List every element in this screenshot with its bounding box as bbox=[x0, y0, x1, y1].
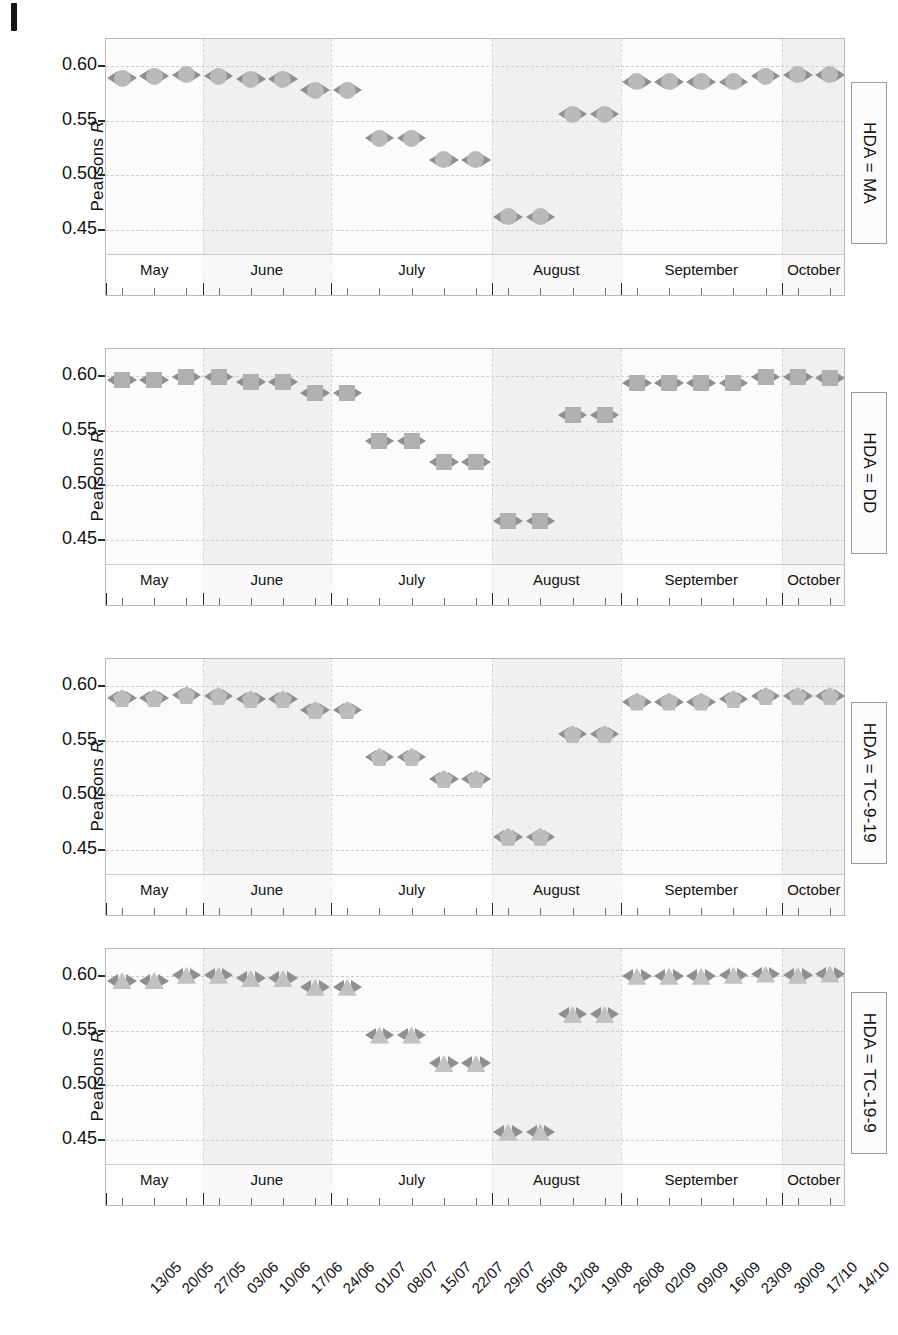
y-axis-tick-label: 0.55 bbox=[45, 1019, 97, 1040]
marker-square bbox=[178, 369, 194, 385]
data-point bbox=[107, 370, 137, 390]
marker-square bbox=[307, 385, 323, 401]
date-tick bbox=[701, 908, 702, 915]
date-tick bbox=[186, 288, 187, 295]
data-point bbox=[461, 452, 491, 472]
marker-square bbox=[275, 374, 291, 390]
date-tick bbox=[733, 598, 734, 605]
date-tick bbox=[219, 908, 220, 915]
date-tick bbox=[444, 1198, 445, 1205]
month-label: July bbox=[331, 261, 492, 278]
marker-circle bbox=[210, 68, 227, 85]
date-tick bbox=[379, 598, 380, 605]
y-axis-tick-mark bbox=[98, 740, 105, 742]
x-axis-date-label: 01/07 bbox=[371, 1258, 410, 1297]
date-tick bbox=[766, 908, 767, 915]
facet-panel-2: Pearsons R0.450.500.550.60MayJuneJulyAug… bbox=[105, 348, 845, 606]
y-axis-tick-mark bbox=[98, 229, 105, 231]
horizontal-gridline bbox=[106, 1031, 844, 1032]
month-label: May bbox=[106, 881, 203, 898]
month-major-tick bbox=[621, 593, 622, 605]
marker-circle bbox=[339, 82, 356, 99]
month-label: May bbox=[106, 1171, 203, 1188]
data-point bbox=[751, 964, 781, 984]
data-point bbox=[172, 367, 202, 387]
x-axis-date-label: 22/07 bbox=[468, 1258, 507, 1297]
marker-circle bbox=[564, 106, 581, 123]
data-point bbox=[268, 372, 298, 392]
date-tick bbox=[508, 598, 509, 605]
marker-circle bbox=[532, 208, 549, 225]
data-point bbox=[493, 1122, 523, 1142]
data-point bbox=[526, 1122, 556, 1142]
horizontal-gridline bbox=[106, 230, 844, 231]
data-point bbox=[268, 968, 298, 988]
y-axis-tick-label: 0.55 bbox=[45, 109, 97, 130]
data-point bbox=[493, 511, 523, 531]
horizontal-gridline bbox=[106, 1140, 844, 1141]
data-point bbox=[815, 368, 845, 388]
marker-square bbox=[725, 375, 741, 391]
data-point bbox=[204, 686, 234, 706]
date-tick bbox=[573, 908, 574, 915]
x-axis-date-label: 03/06 bbox=[243, 1258, 282, 1297]
date-tick bbox=[186, 1198, 187, 1205]
data-point bbox=[333, 977, 363, 997]
marker-circle bbox=[693, 73, 710, 90]
marker-square bbox=[500, 513, 516, 529]
y-axis-tick-mark bbox=[98, 685, 105, 687]
date-tick bbox=[476, 908, 477, 915]
data-point bbox=[590, 405, 620, 425]
month-major-tick bbox=[203, 593, 204, 605]
plot-area: MayJuneJulyAugustSeptemberOctober bbox=[105, 38, 845, 296]
date-tick bbox=[508, 1198, 509, 1205]
x-axis-date-label: 26/08 bbox=[629, 1258, 668, 1297]
horizontal-gridline bbox=[106, 431, 844, 432]
data-point bbox=[783, 686, 813, 706]
data-point bbox=[719, 373, 749, 393]
marker-square bbox=[114, 372, 130, 388]
month-major-tick bbox=[203, 283, 204, 295]
date-tick bbox=[476, 1198, 477, 1205]
data-point bbox=[107, 68, 137, 88]
date-tick bbox=[315, 598, 316, 605]
horizontal-gridline bbox=[106, 540, 844, 541]
date-tick bbox=[283, 598, 284, 605]
date-tick bbox=[605, 598, 606, 605]
marker-square bbox=[822, 370, 838, 386]
date-tick bbox=[154, 288, 155, 295]
data-point bbox=[300, 700, 330, 720]
date-tick bbox=[122, 598, 123, 605]
marker-square bbox=[243, 374, 259, 390]
date-tick bbox=[540, 1198, 541, 1205]
data-point bbox=[461, 150, 491, 170]
month-major-tick bbox=[782, 593, 783, 605]
x-axis-date-label: 20/05 bbox=[178, 1258, 217, 1297]
y-axis-tick-mark bbox=[98, 120, 105, 122]
data-point bbox=[783, 367, 813, 387]
data-point bbox=[526, 827, 556, 847]
marker-square bbox=[468, 454, 484, 470]
marker-circle bbox=[725, 73, 742, 90]
month-axis-strip: MayJuneJulyAugustSeptemberOctober bbox=[106, 564, 844, 605]
date-tick bbox=[347, 1198, 348, 1205]
y-axis-tick-mark bbox=[98, 794, 105, 796]
y-axis-tick-mark bbox=[98, 975, 105, 977]
x-axis-date-label: 15/07 bbox=[436, 1258, 475, 1297]
y-axis-tick-label: 0.45 bbox=[45, 1128, 97, 1149]
data-point bbox=[397, 747, 427, 767]
x-axis-date-label: 10/06 bbox=[275, 1258, 314, 1297]
data-point bbox=[461, 769, 491, 789]
date-tick bbox=[412, 288, 413, 295]
data-point bbox=[236, 689, 266, 709]
x-axis-date-label: 05/08 bbox=[532, 1258, 571, 1297]
marker-square bbox=[211, 369, 227, 385]
month-label: July bbox=[331, 571, 492, 588]
data-point bbox=[558, 405, 588, 425]
facet-strip-text: HDA = MA bbox=[859, 122, 879, 204]
month-major-tick bbox=[203, 1193, 204, 1205]
data-point bbox=[300, 977, 330, 997]
date-tick bbox=[573, 598, 574, 605]
date-tick bbox=[766, 1198, 767, 1205]
date-tick bbox=[798, 288, 799, 295]
